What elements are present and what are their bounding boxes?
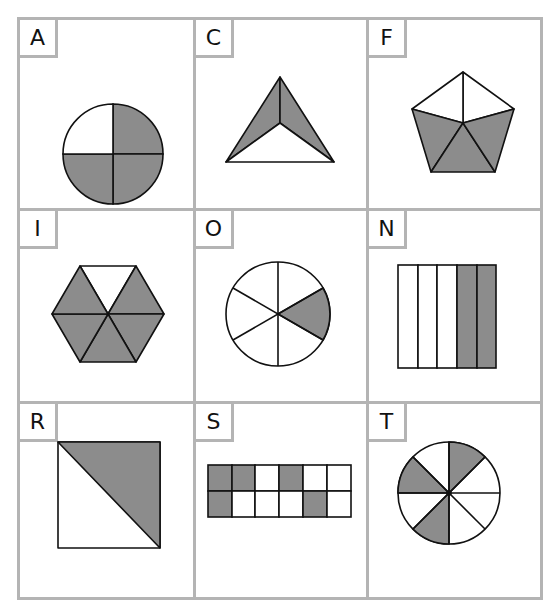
rectangle-fifths-shape (369, 211, 543, 401)
cell-c: C (196, 20, 366, 208)
cell-o: O (196, 211, 366, 401)
cell-f: F (369, 20, 543, 208)
pentagon-fifths-shape (369, 20, 543, 208)
hexagon-sixths-shape (20, 211, 193, 401)
cell-i: I (20, 211, 193, 401)
circle-sixths-shape (196, 211, 366, 401)
cell-s: S (196, 404, 366, 600)
grid-twelfths-shape (196, 404, 366, 600)
cell-n: N (369, 211, 543, 401)
square-halves-shape (20, 404, 193, 600)
triangle-thirds-shape (196, 20, 366, 208)
cell-a: A (20, 20, 193, 208)
cell-t: T (369, 404, 543, 600)
circle-quarters-shape (20, 20, 193, 208)
circle-eighths-shape (369, 404, 543, 600)
cell-r: R (20, 404, 193, 600)
worksheet-grid: A C F (17, 17, 543, 600)
